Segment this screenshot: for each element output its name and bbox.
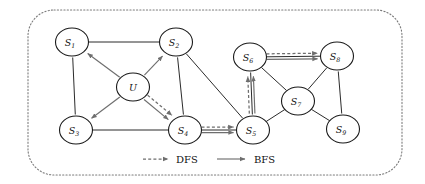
- bfs-arrow: [92, 97, 120, 118]
- graph-edges: [73, 42, 342, 130]
- node-label: U: [129, 82, 138, 93]
- graph-node-s2: S2: [160, 28, 193, 56]
- graph-node-s6: S6: [234, 43, 267, 71]
- graph-node-s5: S5: [237, 116, 270, 144]
- graph-edge: [261, 67, 286, 90]
- graph-edge: [308, 68, 327, 90]
- graph-node-s7: S7: [282, 87, 315, 115]
- graph-edge: [186, 54, 243, 119]
- graph-edge: [73, 57, 76, 114]
- bfs-arrow: [267, 59, 318, 60]
- bfs-arrow: [88, 54, 120, 78]
- graph-node-s8: S8: [321, 42, 354, 70]
- graph-node-u: U: [117, 73, 150, 101]
- dfs-arrow: [248, 77, 250, 114]
- graph-edge: [265, 56, 321, 57]
- graph-node-s9: S9: [327, 115, 360, 143]
- graph-edge: [266, 109, 285, 121]
- legend: DFS BFS: [143, 154, 275, 165]
- graph-node-s4: S4: [169, 116, 202, 144]
- legend-dfs-label: DFS: [176, 154, 198, 165]
- dfs-arrow: [266, 53, 317, 54]
- graph-node-s1: S1: [56, 28, 89, 56]
- graph-edge: [178, 57, 184, 114]
- bfs-arrow: [253, 76, 255, 113]
- legend-bfs-label: BFS: [254, 154, 275, 165]
- diagram-figure: S1S2US3S4S5S6S7S8S9 DFS BFS: [0, 0, 425, 184]
- graph-edge: [251, 72, 253, 114]
- graph-node-s3: S3: [60, 116, 93, 144]
- bfs-arrow: [144, 56, 162, 75]
- graph-canvas: S1S2US3S4S5S6S7S8S9 DFS BFS: [0, 0, 425, 184]
- graph-edge: [338, 71, 341, 113]
- graph-edge: [311, 109, 330, 121]
